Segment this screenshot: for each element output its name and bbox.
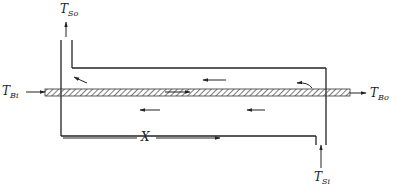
label-body-out: TBo xyxy=(370,86,389,102)
label-x-axis: X xyxy=(141,130,150,144)
label-body-in: TBi xyxy=(2,84,18,100)
heat-exchanger-diagram xyxy=(0,0,397,190)
turn-arrow-right xyxy=(297,83,312,88)
label-shell-out: TSo xyxy=(60,2,78,18)
label-shell-in: TSi xyxy=(314,170,330,186)
rod xyxy=(45,89,350,96)
turn-arrow-left xyxy=(74,77,87,83)
